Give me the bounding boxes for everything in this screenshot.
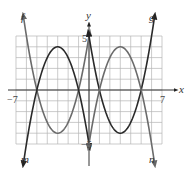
- y-axis-label: y: [86, 10, 91, 21]
- curve-n: [88, 47, 154, 165]
- y-max-tick-label: 5: [82, 34, 87, 44]
- curve-label-m: m: [21, 154, 29, 165]
- x-min-tick-label: −7: [7, 95, 18, 105]
- curve-label-n: n: [149, 154, 155, 165]
- x-max-tick-label: 7: [160, 95, 165, 105]
- graph-svg: [0, 0, 192, 176]
- curve-f: [23, 16, 89, 134]
- curve-g: [88, 16, 154, 134]
- curve-label-g: g: [149, 12, 155, 23]
- y-min-tick-label: −5: [81, 140, 92, 150]
- curve-m: [23, 47, 89, 165]
- curve-label-f: f: [21, 12, 24, 23]
- x-axis-label: x: [179, 84, 184, 95]
